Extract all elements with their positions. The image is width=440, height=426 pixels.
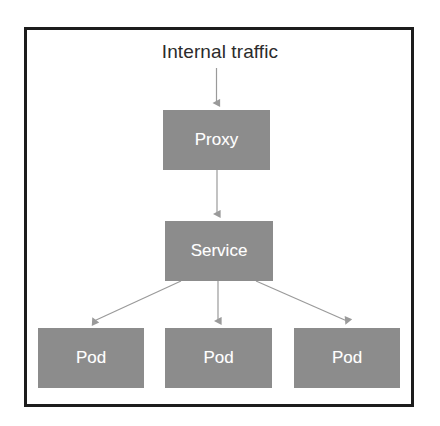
page-title: Internal traffic [0, 40, 440, 64]
node-service-label: Service [191, 241, 248, 261]
node-pod-3-label: Pod [332, 348, 362, 368]
node-pod-2[interactable]: Pod [165, 328, 272, 388]
node-proxy-label: Proxy [195, 130, 238, 150]
node-service[interactable]: Service [165, 221, 273, 281]
node-pod-2-label: Pod [203, 348, 233, 368]
diagram-root: Internal traffic Proxy Service Pod Pod P… [0, 0, 440, 426]
node-pod-3[interactable]: Pod [294, 328, 400, 388]
node-pod-1[interactable]: Pod [38, 328, 144, 388]
node-pod-1-label: Pod [76, 348, 106, 368]
node-proxy[interactable]: Proxy [163, 110, 270, 170]
